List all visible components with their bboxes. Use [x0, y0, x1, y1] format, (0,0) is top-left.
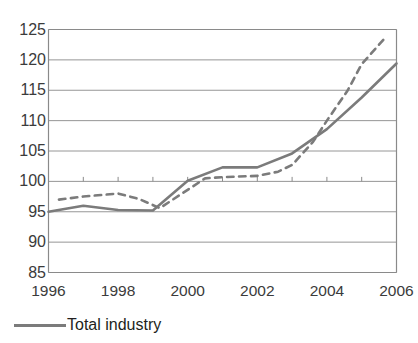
- chart-legend: Total industry: [14, 313, 177, 337]
- legend-line-swatch: [14, 324, 66, 327]
- x-tick-label-2002: 2002: [229, 283, 285, 299]
- legend-entry-0: Total industry: [14, 316, 161, 334]
- x-tick-label-1998: 1998: [90, 283, 146, 299]
- x-tick-label-2000: 2000: [160, 283, 216, 299]
- x-tick-label-1996: 1996: [21, 283, 77, 299]
- legend-label: Total industry: [67, 316, 161, 334]
- x-tick-label-2006: 2006: [369, 283, 418, 299]
- x-tick-label-2004: 2004: [299, 283, 355, 299]
